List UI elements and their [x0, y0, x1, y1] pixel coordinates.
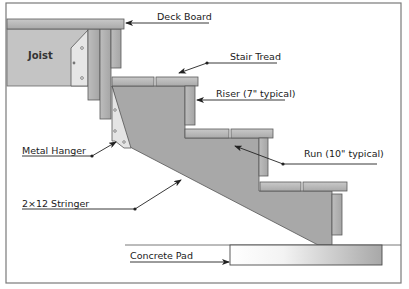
- tread-3a: [260, 182, 301, 191]
- concrete-pad: [230, 245, 382, 265]
- stringer: [112, 86, 332, 245]
- tread-1a: [112, 77, 154, 86]
- deck-board: [7, 19, 124, 29]
- tread-1b: [156, 77, 198, 86]
- rim-board-3: [111, 29, 121, 68]
- label-stringer: 2×12 Stringer: [22, 198, 89, 209]
- rim-board-2: [100, 29, 111, 119]
- label-run: Run (10" typical): [304, 148, 384, 159]
- label-joist: Joist: [27, 50, 53, 61]
- leader-metal-hanger-arrow: [92, 142, 116, 156]
- leader-stair-tread-arrow: [179, 63, 207, 73]
- riser-1: [185, 86, 195, 125]
- riser-3: [332, 194, 342, 235]
- tread-2a: [185, 129, 229, 138]
- label-concrete-pad: Concrete Pad: [130, 250, 193, 261]
- label-stair-tread: Stair Tread: [230, 51, 281, 62]
- stair-diagram: Joist Deck Board Stair Tread Riser (7" t…: [0, 0, 409, 289]
- tread-3b: [303, 182, 347, 191]
- rim-board-1: [88, 29, 100, 100]
- leader-stringer-arrow: [135, 180, 181, 209]
- label-metal-hanger: Metal Hanger: [22, 145, 86, 156]
- label-riser: Riser (7" typical): [216, 88, 296, 99]
- tread-2b: [231, 129, 273, 138]
- label-deck-board: Deck Board: [157, 11, 212, 22]
